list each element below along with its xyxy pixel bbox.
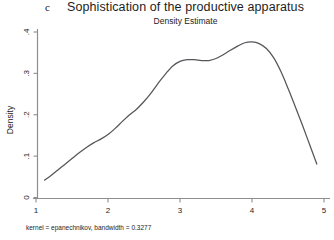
x-axis-tick-label: 2 bbox=[106, 206, 111, 215]
y-axis-tick-label: .3 bbox=[22, 69, 31, 76]
y-axis-title: Density bbox=[5, 105, 15, 134]
y-axis-tick-label: 0 bbox=[22, 195, 31, 200]
x-axis-tick-label: 3 bbox=[178, 206, 183, 215]
y-axis-ticks: 0.1.2.3.4 bbox=[22, 28, 37, 200]
density-curve bbox=[45, 42, 317, 180]
y-axis-tick-label: .4 bbox=[22, 28, 31, 35]
plot-area: 0.1.2.3.4 12345 Density bbox=[0, 0, 334, 240]
x-axis-ticks: 12345 bbox=[34, 199, 327, 216]
density-plot-figure: c Sophistication of the productive appar… bbox=[0, 0, 334, 240]
y-axis-tick-label: .1 bbox=[22, 152, 31, 159]
x-axis-tick-label: 5 bbox=[322, 206, 327, 215]
x-axis-tick-label: 4 bbox=[250, 206, 255, 215]
y-axis-tick-label: .2 bbox=[22, 111, 31, 118]
x-axis-tick-label: 1 bbox=[34, 206, 39, 215]
kernel-note: kernel = epanechnikov, bandwidth = 0.327… bbox=[26, 224, 151, 232]
